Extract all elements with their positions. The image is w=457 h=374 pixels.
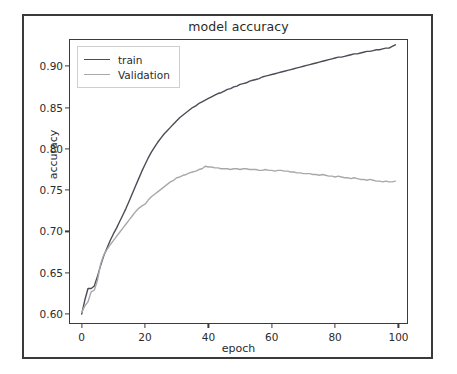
x-tick-mark [144,324,145,328]
legend-label: Validation [118,69,170,81]
x-axis-label: epoch [69,342,408,355]
legend-line-swatch [84,74,110,75]
legend-line-swatch [84,59,110,60]
figure-panel: model accuracy accuracy epoch 0.600.650.… [22,14,433,359]
x-tick-mark [271,324,272,328]
x-tick-label: 20 [138,331,151,343]
plot-area: 0.600.650.700.750.800.850.90 02040608010… [69,39,408,324]
legend-item[interactable]: Validation [84,67,170,82]
chart-title: model accuracy [69,19,408,34]
y-tick-label: 0.60 [40,308,63,320]
x-tick-mark [208,324,209,328]
x-tick-label: 0 [78,331,85,343]
y-tick-label: 0.85 [40,102,63,114]
x-tick-label: 40 [202,331,215,343]
legend-label: train [118,54,142,66]
y-tick-label: 0.75 [40,184,63,196]
y-tick-label: 0.80 [40,143,63,155]
y-tick-label: 0.70 [40,225,63,237]
chart-legend: trainValidation [77,46,180,88]
x-tick-label: 100 [388,331,408,343]
y-tick-label: 0.65 [40,267,63,279]
y-tick-mark [65,148,69,149]
x-tick-mark [335,324,336,328]
x-tick-mark [398,324,399,328]
y-tick-mark [65,190,69,191]
y-tick-mark [65,66,69,67]
x-tick-mark [81,324,82,328]
x-tick-label: 80 [328,331,341,343]
series-line-validation [82,166,396,312]
y-tick-mark [65,272,69,273]
y-tick-label: 0.90 [40,60,63,72]
y-tick-mark [65,107,69,108]
y-tick-mark [65,231,69,232]
x-tick-label: 60 [265,331,278,343]
legend-item[interactable]: train [84,52,170,67]
y-tick-mark [65,313,69,314]
